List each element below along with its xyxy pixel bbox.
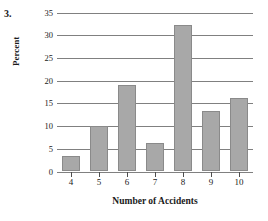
x-axis-tick-labels: 45678910 bbox=[57, 172, 253, 194]
x-tick-label: 10 bbox=[227, 178, 251, 187]
y-tick-label: 0 bbox=[31, 168, 53, 177]
y-axis-title: Percent bbox=[11, 0, 21, 66]
bar bbox=[90, 126, 108, 171]
y-tick-label: 35 bbox=[31, 9, 53, 18]
bar bbox=[202, 111, 220, 171]
bar bbox=[118, 85, 136, 171]
y-axis-tick-labels: 05101520253035 bbox=[29, 13, 53, 172]
x-tick-label: 4 bbox=[59, 178, 83, 187]
x-tick-label: 7 bbox=[143, 178, 167, 187]
y-tick-label: 5 bbox=[31, 145, 53, 154]
bar bbox=[146, 143, 164, 171]
x-tick-label: 5 bbox=[87, 178, 111, 187]
y-tick-label: 30 bbox=[31, 31, 53, 40]
bar bbox=[62, 156, 80, 171]
bar bbox=[230, 98, 248, 171]
y-tick-label: 20 bbox=[31, 77, 53, 86]
bar bbox=[174, 25, 192, 171]
x-axis-title: Number of Accidents bbox=[57, 196, 253, 206]
x-tick-label: 6 bbox=[115, 178, 139, 187]
x-tick-label: 8 bbox=[171, 178, 195, 187]
y-tick-label: 15 bbox=[31, 99, 53, 108]
y-tick-label: 25 bbox=[31, 54, 53, 63]
x-tick-label: 9 bbox=[199, 178, 223, 187]
figure-container: 3. Percent 05101520253035 45678910 Numbe… bbox=[0, 0, 268, 221]
bar-series bbox=[57, 13, 253, 172]
y-tick-label: 10 bbox=[31, 122, 53, 131]
